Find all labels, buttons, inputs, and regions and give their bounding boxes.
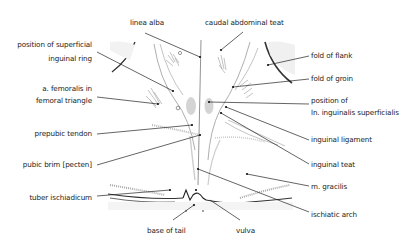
teat-marker-lower (176, 106, 180, 110)
label-superficial-inguinal-ring: position of superficial inguinal ring (17, 40, 92, 63)
label-line: prepubic tendon (34, 129, 92, 138)
label-ischiatic-arch: ischiatic arch (311, 210, 357, 219)
label-line: m. gracilis (311, 182, 347, 191)
label-a-femoralis: a. femoralis in femoral triangle (36, 84, 92, 105)
label-line: linea alba (130, 18, 164, 27)
label-pubic-brim: pubic brim [pecten] (23, 160, 92, 169)
label-line: tuber ischiadicum (29, 193, 92, 202)
label-caudal-abdominal-teat: caudal abdominal teat (205, 18, 284, 27)
right-contour (208, 42, 250, 160)
label-line: pubic brim [pecten] (23, 160, 92, 169)
label-line: a. femoralis in (36, 84, 92, 93)
teat-marker-upper (178, 51, 181, 54)
ln-left-shade (186, 97, 196, 115)
label-line: position of superficial (17, 40, 92, 49)
label-linea-alba: linea alba (130, 18, 164, 27)
label-ln-inguinalis: position of ln. inguinalis superficialis (311, 96, 399, 117)
label-line: position of (311, 96, 399, 105)
label-line: ln. inguinalis superficialis (311, 108, 399, 117)
tuber-line (108, 194, 183, 199)
pubic-arc-left-2 (190, 136, 195, 180)
label-line: inguinal teat (311, 160, 355, 169)
label-line: inguinal ligament (311, 135, 372, 144)
anatomy-drawing (0, 0, 407, 244)
label-line: fold of groin (311, 74, 353, 83)
gracilis-contour (208, 140, 220, 185)
label-fold-of-flank: fold of flank (311, 51, 352, 60)
label-line: base of tail (147, 226, 186, 235)
label-fold-of-groin: fold of groin (311, 74, 353, 83)
ground-shade (108, 202, 293, 210)
linea-alba-line (198, 40, 201, 185)
left-contour (154, 44, 195, 150)
left-flank-shade (110, 41, 135, 60)
label-prepubic-tendon: prepubic tendon (34, 129, 92, 138)
tail-base (183, 190, 206, 200)
label-base-of-tail: base of tail (147, 226, 186, 235)
label-line: inguinal ring (17, 54, 92, 63)
label-inguinal-ligament: inguinal ligament (311, 135, 372, 144)
label-inguinal-teat: inguinal teat (311, 160, 355, 169)
ischiatic-hatching (240, 185, 290, 198)
label-vulva: vulva (236, 226, 255, 235)
ln-right-shade (205, 98, 214, 114)
tuber-hatching (110, 185, 165, 195)
label-line: vulva (236, 226, 255, 235)
label-line: caudal abdominal teat (205, 18, 284, 27)
label-line: femoral triangle (36, 96, 92, 105)
label-m-gracilis: m. gracilis (311, 182, 347, 191)
label-line: ischiatic arch (311, 210, 357, 219)
label-line: fold of flank (311, 51, 352, 60)
label-tuber-ischiadicum: tuber ischiadicum (29, 193, 92, 202)
